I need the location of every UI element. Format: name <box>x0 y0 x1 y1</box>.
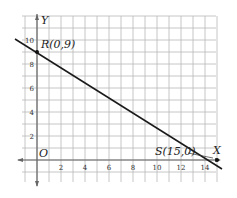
x-axis-arrow-left-icon <box>17 158 23 162</box>
y-tick-label: 8 <box>30 61 34 69</box>
x-tick-label: 2 <box>59 164 63 172</box>
coordinate-plane: 2468101214246810 R(0,9) S(15,0) Y X O <box>0 0 237 198</box>
point-r <box>35 50 39 54</box>
point-s <box>215 158 219 162</box>
x-tick-label: 4 <box>83 164 88 172</box>
x-tick-label: 6 <box>107 164 112 172</box>
x-tick-label: 10 <box>153 164 162 172</box>
y-tick-label: 2 <box>30 133 34 141</box>
x-tick-label: 12 <box>177 164 186 172</box>
x-tick-label: 8 <box>131 164 135 172</box>
y-tick-label: 6 <box>30 85 35 93</box>
y-axis-arrow-up-icon <box>35 14 39 20</box>
x-axis-label: X <box>212 144 222 157</box>
y-axis-arrow-down-icon <box>35 181 39 187</box>
y-tick-label: 10 <box>25 37 34 45</box>
point-r-label: R(0,9) <box>40 38 75 51</box>
point-s-label: S(15,0) <box>155 145 196 158</box>
origin-label: O <box>39 147 48 160</box>
y-tick-label: 4 <box>30 109 35 117</box>
x-tick-label: 14 <box>201 164 210 172</box>
